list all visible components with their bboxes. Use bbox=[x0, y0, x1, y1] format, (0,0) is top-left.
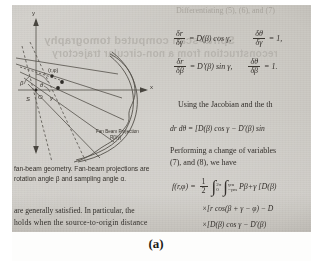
point-marker-b bbox=[56, 86, 60, 90]
y-axis-arrow-down bbox=[33, 146, 39, 154]
equation-1: δr δγ = D(β) cos γ, δθ δγ = 1, bbox=[172, 30, 282, 48]
equation-6: ×[D(β) cos γ − D'(β) bbox=[202, 220, 266, 229]
paragraph-jacobian: Using the Jacobian and the th bbox=[178, 100, 272, 109]
x-axis-arrow bbox=[140, 87, 148, 93]
x-axis-label: x bbox=[150, 84, 153, 90]
equation-4: f(r,φ) = 1 2 ∫2π0 ∫γm−γm Pβ+γ [D(β) bbox=[172, 178, 277, 196]
fan-beam-geometry-figure: y x (r,φ) β θ γ O S Fan Beam Projection … bbox=[14, 12, 162, 160]
beta-angle-label: β bbox=[20, 80, 23, 86]
integral-2-limits: γm−γm bbox=[228, 182, 237, 193]
source-label: S bbox=[26, 96, 30, 102]
equation-5: ×[r cos(β + γ − φ) − D bbox=[202, 204, 273, 213]
subfigure-label: (a) bbox=[136, 236, 176, 252]
figure-vector bbox=[14, 12, 164, 164]
left-white-margin bbox=[0, 0, 12, 261]
point-coordinate-label: (r,φ) bbox=[48, 67, 58, 73]
detector-arc-outer bbox=[78, 52, 137, 162]
y-axis-arrow bbox=[33, 18, 39, 26]
object-boundary bbox=[74, 54, 135, 162]
equation-1-rhs: = D(β) cos γ, bbox=[189, 34, 231, 43]
gamma-angle-label: γ bbox=[50, 95, 53, 101]
equation-3: dr dθ = [D(β) cos γ − D'(β) sin bbox=[170, 124, 265, 133]
right-text-column: δr δγ = D(β) cos γ, δθ δγ = 1, δr δβ = D… bbox=[168, 8, 311, 234]
top-white-margin bbox=[0, 0, 311, 5]
point-marker-a bbox=[60, 80, 64, 84]
fan-ray-2 bbox=[16, 64, 122, 98]
theta-angle-label: θ bbox=[40, 82, 43, 88]
figure-caption-line-1: fan-beam geometry. Fan-beam projections … bbox=[14, 165, 149, 172]
equation-1-rhs-2: = 1, bbox=[269, 34, 282, 43]
body-paragraph-line-2: holds when the source-to-origin distance bbox=[14, 218, 148, 227]
equation-4-half-fraction: 1 2 bbox=[200, 178, 208, 196]
origin-label: O bbox=[38, 94, 43, 100]
angle-arc-theta bbox=[36, 74, 48, 82]
equation-4-tail: Pβ+γ [D(β) bbox=[239, 182, 277, 191]
detector-caption-line-2: Rβ(γ) bbox=[110, 135, 121, 140]
equation-4-lhs: f(r,φ) = bbox=[172, 182, 196, 191]
detector-caption-line-1: Fan Beam Projection bbox=[96, 129, 139, 134]
point-marker-rphi bbox=[50, 74, 53, 77]
equation-2-rhs: = D'(β) sin γ, bbox=[190, 62, 233, 71]
scanned-page: Differentiating (5), (6), and (7) Spiral… bbox=[0, 0, 311, 261]
equation-1-fraction-left: δr δγ bbox=[174, 30, 185, 48]
paragraph-change-of-variables-line-2: (7), and (8), we have bbox=[170, 158, 237, 167]
origin-marker bbox=[35, 89, 38, 92]
y-axis-label: y bbox=[32, 10, 35, 16]
equation-1-fraction-right: δθ δγ bbox=[253, 30, 265, 48]
equation-2-rhs-2: = 1. bbox=[264, 62, 277, 71]
equation-2-fraction-right: δθ δβ bbox=[248, 58, 260, 76]
figure-caption-line-2: rotation angle β and sampling angle α. bbox=[14, 175, 126, 182]
integral-1-limits: 2π0 bbox=[216, 182, 221, 193]
equation-2: δr δβ = D'(β) sin γ, δθ δβ = 1. bbox=[172, 58, 278, 76]
paragraph-change-of-variables-line-1: Performing a change of variables bbox=[170, 146, 276, 155]
equation-2-fraction-left: δr δβ bbox=[174, 58, 186, 76]
fan-ray-1 bbox=[16, 58, 118, 74]
angle-arc-gamma bbox=[44, 86, 50, 92]
fan-ray-3 bbox=[20, 72, 124, 120]
body-paragraph-line-1: are generally satisfied. In particular, … bbox=[14, 206, 135, 215]
